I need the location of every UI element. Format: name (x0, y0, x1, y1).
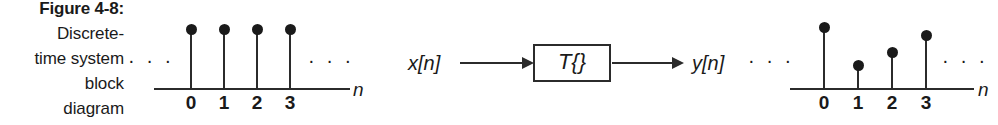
output-stem-dot-2 (887, 47, 898, 58)
output-tick-label-0: 0 (813, 92, 835, 114)
input-tick-label-1: 1 (213, 92, 235, 114)
output-axis-name: n (978, 79, 989, 101)
input-tick-label-0: 0 (180, 92, 202, 114)
output-trailing-ellipsis: · · · (942, 50, 988, 70)
input-leading-ellipsis: · · · (128, 50, 174, 70)
input-stem-dot-2 (252, 24, 263, 35)
caption-line-4: diagram (0, 96, 124, 121)
output-tick-label-2: 2 (881, 92, 903, 114)
output-arrow-shaft (612, 62, 674, 64)
output-tick-label-3: 3 (915, 92, 937, 114)
input-stem-dot-3 (285, 24, 296, 35)
input-axis-line (154, 88, 350, 90)
output-stem-dot-3 (921, 30, 932, 41)
output-arrow-head-icon (672, 57, 684, 69)
input-stem-dot-0 (186, 24, 197, 35)
output-tick-label-1: 1 (847, 92, 869, 114)
output-stem-1 (857, 70, 859, 89)
input-stem-1 (223, 34, 225, 89)
system-block-diagram: x[n] T{} y[n] · · · (400, 0, 790, 125)
output-stem-dot-0 (819, 22, 830, 33)
input-signal-stem-plot: · · · · · · 0 1 2 3 n (126, 0, 366, 125)
output-stem-2 (891, 57, 893, 89)
block-input-label: x[n] (408, 52, 440, 75)
caption-line-1: Discrete- (0, 21, 124, 46)
input-trailing-ellipsis: · · · (308, 50, 354, 70)
output-stem-0 (823, 32, 825, 89)
block-output-label: y[n] (692, 52, 724, 75)
output-signal-stem-plot: · · · 0 1 2 3 n (790, 0, 998, 125)
input-stem-3 (289, 34, 291, 89)
input-stem-dot-1 (219, 24, 230, 35)
input-tick-label-2: 2 (246, 92, 268, 114)
output-stem-dot-1 (853, 60, 864, 71)
system-transform-label: T{} (535, 49, 609, 75)
input-axis-name: n (353, 79, 364, 101)
figure-caption: Figure 4-8: Discrete- time system block … (0, 0, 124, 121)
figure-label: Figure 4-8: (0, 0, 124, 21)
figure-container: Figure 4-8: Discrete- time system block … (0, 0, 998, 125)
system-transform-box: T{} (533, 44, 611, 82)
output-stem-3 (925, 40, 927, 89)
input-stem-0 (190, 34, 192, 89)
caption-line-2: time system (0, 46, 124, 71)
input-stem-2 (256, 34, 258, 89)
output-axis-line (790, 88, 974, 90)
block-trailing-ellipsis: · · · (748, 50, 794, 70)
caption-line-3: block (0, 71, 124, 96)
input-tick-label-3: 3 (279, 92, 301, 114)
input-arrow-shaft (460, 62, 524, 64)
